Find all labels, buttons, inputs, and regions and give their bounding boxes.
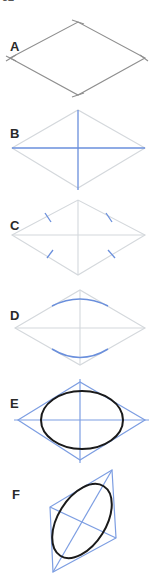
step-label-d: D <box>10 308 19 323</box>
step-a-rhombus <box>6 20 148 97</box>
step-f-tilted-ellipse <box>40 470 124 572</box>
step-d-arcs <box>15 290 145 365</box>
step-b-diagonals <box>12 110 145 190</box>
step-label-b: B <box>10 126 19 141</box>
step-e-ellipse <box>14 379 149 463</box>
step-label-f: F <box>12 487 20 502</box>
step-c-midpoints <box>12 200 145 275</box>
step-label-c: C <box>10 218 19 233</box>
step-label-e: E <box>10 396 19 411</box>
step-label-a: A <box>10 39 19 54</box>
ellipse-construction-drawing <box>0 0 155 574</box>
